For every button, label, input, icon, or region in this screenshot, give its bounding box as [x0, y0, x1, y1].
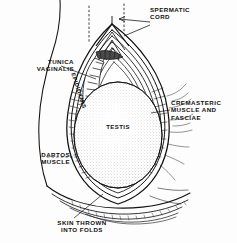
label-tunica-vaginalis: TUNICA VAGINALIS [2, 58, 74, 73]
label-skin-thrown-into-folds: SKIN THROWN INTO FOLDS [36, 219, 128, 234]
scrotum-section-drawing [0, 0, 237, 243]
testis-body [74, 82, 162, 188]
label-cremasteric-muscle-and-fasciae: CREMASTERIC MUSCLE AND FASCIAE [171, 99, 237, 121]
label-spermatic-cord: SPERMATIC CORD [150, 6, 220, 21]
anatomical-figure: SPERMATIC CORD TUNICA VAGINALIS CREMASTE… [0, 0, 237, 243]
fold-hair-strokes [72, 201, 186, 220]
label-dartos-muscle: DARTOS MUSCLE [0, 151, 70, 166]
label-testis: TESTIS [96, 124, 140, 131]
